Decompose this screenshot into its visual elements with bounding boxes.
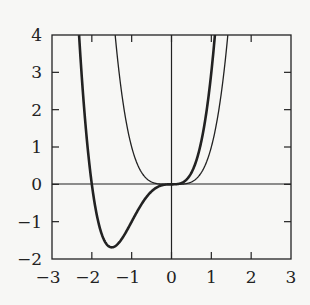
y-tick-label: 0 [31,174,42,194]
x-tick-label: −2 [75,267,100,287]
x-tick-label: 1 [206,267,217,287]
x-tick-label: −3 [35,267,60,287]
y-tick-label: 2 [31,100,42,120]
y-tick-label: 3 [31,62,42,82]
x-tick-label: 3 [286,267,297,287]
x-tick-label: 0 [166,267,177,287]
y-tick-labels: −2−101234 [17,25,42,269]
x-tick-labels: −3−2−10123 [35,267,296,287]
x-tick-label: 2 [246,267,257,287]
y-tick-label: 4 [31,25,42,45]
series-line-thick [79,35,215,247]
curves [79,35,228,247]
y-tick-label: −1 [17,212,42,232]
x-tick-label: −1 [115,267,140,287]
y-tick-label: −2 [17,249,42,269]
chart: −3−2−10123 −2−101234 [0,0,310,305]
y-tick-label: 1 [31,137,42,157]
